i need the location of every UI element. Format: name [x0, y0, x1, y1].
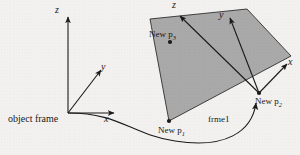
diagram-svg	[0, 0, 300, 155]
point-label-new-p1-text: New p	[158, 125, 182, 135]
point-label-new-p3-sub: 3	[173, 34, 176, 41]
object-frame-y-label: y	[101, 62, 105, 72]
point-label-new-p2-sub: 2	[279, 101, 282, 108]
object-frame-y-axis	[68, 70, 101, 113]
point-label-new-p3: New p3	[149, 30, 176, 41]
point-label-new-p2-text: New p	[255, 96, 279, 106]
new-frame-name-label: frme1	[208, 115, 230, 124]
object-frame-x-label: x	[104, 114, 108, 124]
point-label-new-p1: New p1	[158, 126, 185, 137]
new-frame-y-label: y	[219, 10, 223, 20]
object-frame-z-label: z	[55, 5, 59, 15]
point-new-p1	[167, 119, 171, 123]
point-label-new-p2: New p2	[255, 97, 282, 108]
new-frame-z-label: z	[172, 0, 176, 10]
point-label-new-p3-text: New p	[149, 29, 173, 39]
new-frame-x-label: x	[288, 57, 292, 67]
figure-canvas: z y x object frame z y x New p3 New p2 N…	[0, 0, 300, 155]
point-label-new-p1-sub: 1	[182, 130, 185, 137]
point-new-p2	[257, 91, 261, 95]
object-frame-caption: object frame	[8, 114, 58, 124]
